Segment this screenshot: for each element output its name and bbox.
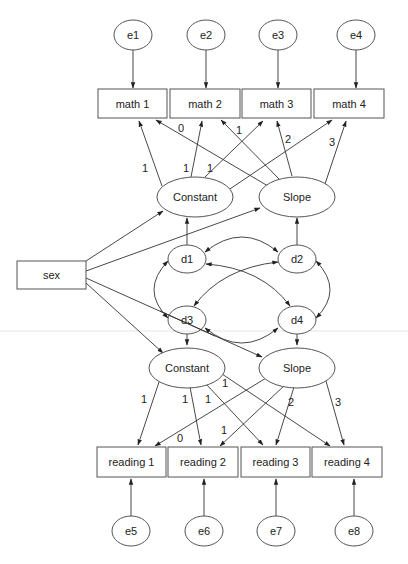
weight-cr-r4: 1	[222, 377, 228, 389]
node-reading1: reading 1	[97, 447, 166, 477]
svg-text:e1: e1	[127, 29, 139, 41]
edge-slope-reading4	[326, 381, 344, 445]
node-math1: math 1	[98, 89, 167, 118]
edge-sex-constant-math	[86, 211, 163, 261]
edge-constant-math3	[205, 121, 263, 177]
weight-sm-m3: 2	[285, 133, 291, 145]
node-math3: math 3	[242, 89, 311, 118]
node-e5: e5	[112, 516, 150, 546]
node-d4: d4	[278, 306, 316, 334]
edge-slope-math1	[156, 120, 268, 186]
svg-text:Slope: Slope	[283, 191, 311, 203]
svg-text:math 2: math 2	[188, 98, 222, 110]
weight-cr-r2: 1	[182, 393, 188, 405]
svg-text:math 1: math 1	[116, 98, 150, 110]
svg-text:e4: e4	[350, 29, 362, 41]
svg-text:d1: d1	[181, 253, 193, 265]
svg-text:e6: e6	[198, 525, 210, 537]
edge-constant-math2	[191, 121, 202, 177]
svg-text:reading 3: reading 3	[253, 456, 299, 468]
svg-text:e3: e3	[272, 29, 284, 41]
svg-text:d2: d2	[291, 253, 303, 265]
node-reading2: reading 2	[168, 447, 238, 477]
cov-d2-d3	[194, 262, 278, 306]
svg-text:e8: e8	[348, 525, 360, 537]
weight-cm-m3: 1	[207, 162, 213, 174]
edge-slope-math2	[221, 120, 280, 180]
node-e2: e2	[187, 20, 225, 50]
cov-d1-d2	[205, 237, 278, 252]
cov-d3-d4	[205, 328, 278, 343]
weight-sr-r1: 0	[177, 432, 183, 444]
node-sex: sex	[17, 261, 86, 289]
edge-constant-reading1	[138, 382, 159, 445]
weight-sm-m1: 0	[178, 122, 184, 134]
weight-cm-m1: 1	[142, 162, 148, 174]
weight-cr-r1: 1	[141, 393, 147, 405]
cov-d1-d4	[206, 264, 290, 306]
weight-cr-r3: 1	[205, 393, 211, 405]
svg-text:d3: d3	[181, 314, 193, 326]
node-d1: d1	[168, 245, 206, 273]
weight-cm-m2: 1	[183, 162, 189, 174]
svg-text:d4: d4	[291, 314, 303, 326]
path-diagram: 1 1 1 0 1 2 3 1 1 1 1 0 1 2 3 e1 e2 e3 e…	[0, 0, 408, 564]
cov-d2-d4	[316, 261, 330, 318]
node-math2: math 2	[170, 89, 240, 118]
node-e1: e1	[114, 20, 152, 50]
svg-text:Slope: Slope	[283, 362, 311, 374]
node-constant-math: Constant	[157, 177, 233, 217]
weight-sr-r3: 2	[288, 396, 294, 408]
node-constant-reading: Constant	[149, 348, 225, 388]
svg-text:math 4: math 4	[332, 98, 366, 110]
svg-text:e7: e7	[270, 525, 282, 537]
node-e4: e4	[337, 20, 375, 50]
edge-slope-math4	[325, 121, 346, 184]
weight-sr-r2: 1	[221, 424, 227, 436]
node-reading4: reading 4	[312, 447, 382, 477]
svg-text:Constant: Constant	[173, 191, 217, 203]
svg-text:e5: e5	[125, 525, 137, 537]
node-slope-math: Slope	[259, 177, 335, 217]
edge-constant-reading3	[207, 385, 263, 445]
node-math4: math 4	[314, 89, 384, 118]
node-d2: d2	[278, 245, 316, 273]
edges	[86, 50, 356, 516]
svg-text:e2: e2	[200, 29, 212, 41]
node-e3: e3	[259, 20, 297, 50]
node-reading3: reading 3	[241, 447, 310, 477]
node-slope-reading: Slope	[259, 348, 335, 388]
node-e6: e6	[185, 516, 223, 546]
edge-constant-math1	[139, 121, 162, 186]
svg-text:reading 2: reading 2	[180, 456, 226, 468]
svg-text:Constant: Constant	[165, 362, 209, 374]
edge-constant-reading2	[190, 387, 201, 445]
svg-text:reading 1: reading 1	[109, 456, 155, 468]
weight-sm-m2: 1	[236, 124, 242, 136]
node-e8: e8	[335, 516, 373, 546]
edge-sex-constant-reading	[86, 283, 163, 353]
weight-sr-r4: 3	[335, 396, 341, 408]
node-e7: e7	[257, 516, 295, 546]
svg-text:math 3: math 3	[260, 98, 294, 110]
svg-text:reading 4: reading 4	[324, 456, 370, 468]
svg-text:sex: sex	[43, 269, 61, 281]
weight-sm-m4: 3	[329, 136, 335, 148]
